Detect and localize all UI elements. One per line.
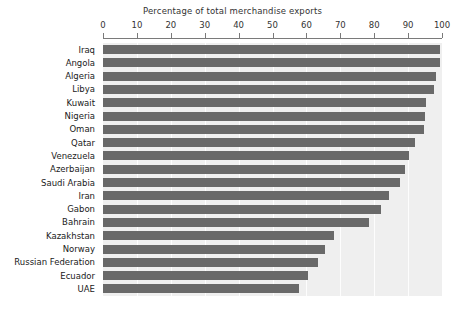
x-axis-tick-mark [442, 33, 443, 38]
category-label: Norway [0, 244, 95, 254]
bar-row: Algeria [0, 70, 465, 83]
bar-row: Russian Federation [0, 256, 465, 269]
bar-row: Norway [0, 243, 465, 256]
x-axis-tick-mark [374, 33, 375, 38]
bar-row: UAE [0, 282, 465, 295]
x-axis-tick-mark [239, 33, 240, 38]
bar [103, 165, 405, 174]
x-axis-tick-mark [103, 33, 104, 38]
bar [103, 85, 434, 94]
bar [103, 98, 426, 107]
x-axis-tick-label: 0 [100, 20, 105, 30]
category-label: Ecuador [0, 271, 95, 281]
bar-row: Gabon [0, 203, 465, 216]
x-axis-tick-label: 20 [165, 20, 176, 30]
category-label: Algeria [0, 71, 95, 81]
x-axis-tick-mark [306, 33, 307, 38]
bar-row: Oman [0, 123, 465, 136]
bar-row: Libya [0, 83, 465, 96]
category-label: Iran [0, 191, 95, 201]
x-axis-tick-label: 70 [335, 20, 346, 30]
x-axis-tick-label: 50 [267, 20, 278, 30]
bar-row: Angola [0, 56, 465, 69]
bar-row: Nigeria [0, 110, 465, 123]
bar-row: Qatar [0, 136, 465, 149]
category-label: Russian Federation [0, 257, 95, 267]
x-axis-tick-label: 60 [301, 20, 312, 30]
bar [103, 72, 436, 81]
category-label: Kuwait [0, 98, 95, 108]
category-label: Nigeria [0, 111, 95, 121]
x-axis-tick-label: 30 [199, 20, 210, 30]
category-label: Azerbaijan [0, 164, 95, 174]
bar [103, 231, 334, 240]
bar [103, 271, 308, 280]
bar [103, 125, 424, 134]
x-axis-tick-label: 80 [369, 20, 380, 30]
chart-title: Percentage of total merchandise exports [0, 6, 465, 16]
bar [103, 58, 440, 67]
bar [103, 258, 318, 267]
bar-chart: Percentage of total merchandise exports … [0, 0, 465, 312]
bar [103, 178, 400, 187]
x-axis-tick-label: 90 [403, 20, 414, 30]
category-label: Venezuela [0, 151, 95, 161]
bar [103, 205, 381, 214]
bar [103, 245, 325, 254]
bar [103, 151, 409, 160]
bar-row: Saudi Arabia [0, 176, 465, 189]
category-label: Saudi Arabia [0, 178, 95, 188]
x-axis-tick-mark [137, 33, 138, 38]
category-label: Kazakhstan [0, 231, 95, 241]
category-label: UAE [0, 284, 95, 294]
x-axis-tick-mark [171, 33, 172, 38]
x-axis-tick-label: 40 [233, 20, 244, 30]
category-label: Angola [0, 58, 95, 68]
bar-row: Iran [0, 189, 465, 202]
bar-row: Ecuador [0, 269, 465, 282]
bar [103, 284, 299, 293]
x-axis: 0102030405060708090100 [0, 20, 465, 42]
bar-row: Bahrain [0, 216, 465, 229]
category-label: Iraq [0, 45, 95, 55]
x-axis-tick-label: 100 [434, 20, 450, 30]
x-axis-tick-mark [205, 33, 206, 38]
bar-row: Iraq [0, 43, 465, 56]
category-label: Gabon [0, 204, 95, 214]
x-axis-tick-mark [340, 33, 341, 38]
bar [103, 191, 389, 200]
bar [103, 45, 440, 54]
x-axis-tick-mark [408, 33, 409, 38]
bar-rows: IraqAngolaAlgeriaLibyaKuwaitNigeriaOmanQ… [0, 43, 465, 296]
bar [103, 138, 415, 147]
bar-row: Azerbaijan [0, 163, 465, 176]
category-label: Libya [0, 84, 95, 94]
bar-row: Kazakhstan [0, 229, 465, 242]
bar-row: Kuwait [0, 96, 465, 109]
bar [103, 112, 425, 121]
x-axis-tick-mark [273, 33, 274, 38]
x-axis-tick-label: 10 [131, 20, 142, 30]
bar-row: Venezuela [0, 149, 465, 162]
category-label: Bahrain [0, 217, 95, 227]
category-label: Qatar [0, 138, 95, 148]
bar [103, 218, 369, 227]
category-label: Oman [0, 124, 95, 134]
